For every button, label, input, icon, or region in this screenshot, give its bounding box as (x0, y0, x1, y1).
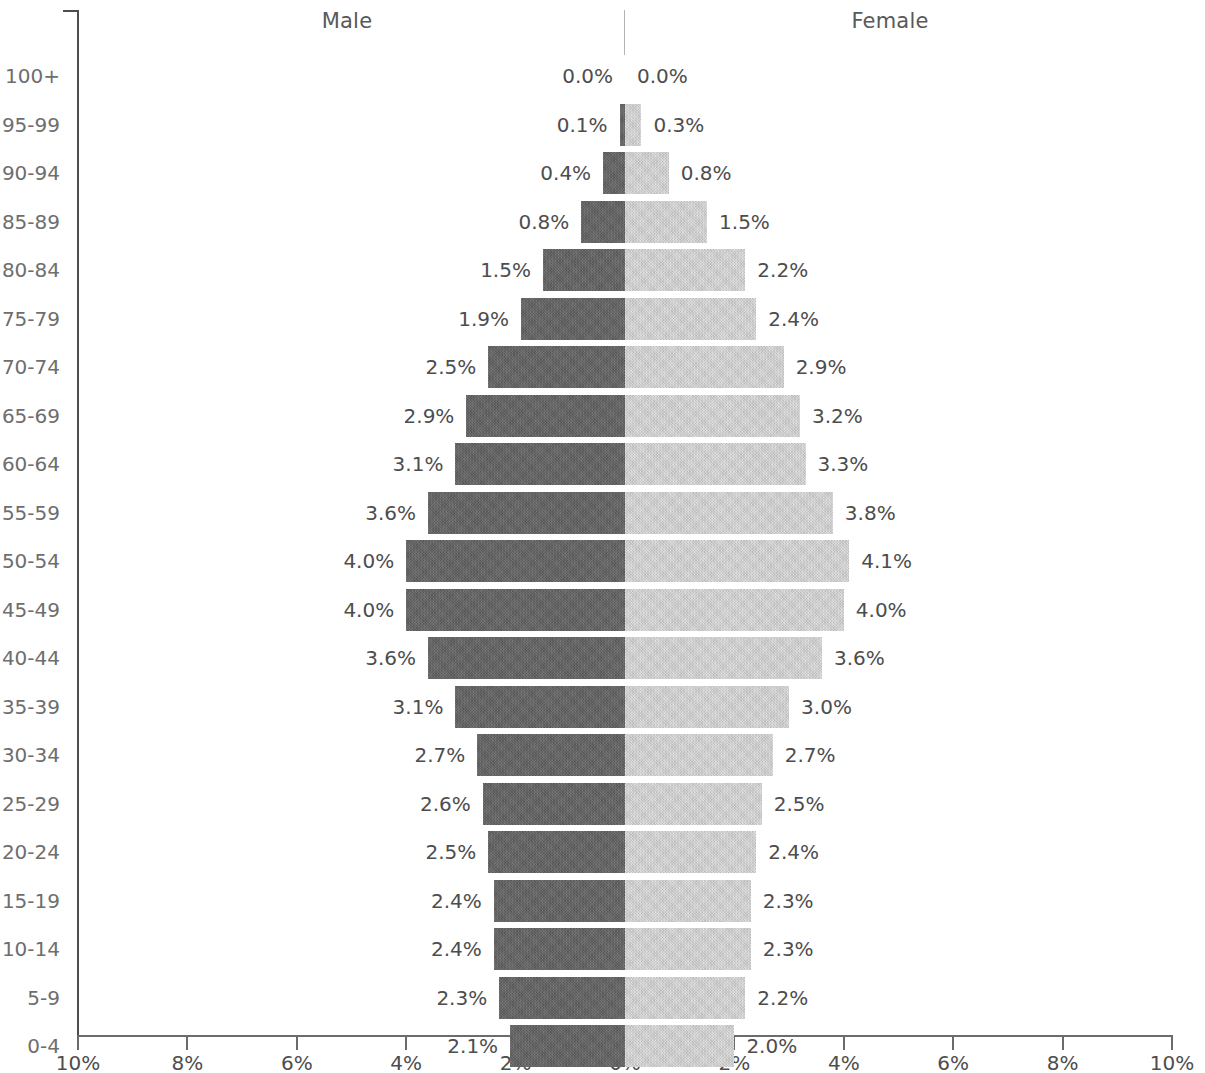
female-bar (625, 298, 756, 340)
male-value-label: 2.4% (0, 889, 482, 913)
female-bar (625, 783, 762, 825)
female-bar (625, 201, 707, 243)
male-value-label: 3.1% (0, 452, 443, 476)
female-bar (625, 152, 669, 194)
female-value-label: 2.5% (774, 792, 825, 816)
male-value-label: 1.5% (0, 258, 531, 282)
female-value-label: 2.0% (746, 1034, 797, 1058)
male-value-label: 2.9% (0, 404, 454, 428)
male-value-label: 2.5% (0, 840, 476, 864)
female-value-label: 0.8% (681, 161, 732, 185)
female-value-label: 2.9% (796, 355, 847, 379)
female-bar (625, 395, 800, 437)
male-bar (483, 783, 625, 825)
female-bar (625, 589, 844, 631)
male-value-label: 0.1% (0, 113, 608, 137)
x-axis-tick (1062, 1037, 1064, 1050)
x-axis-tick-label: 10% (1150, 1051, 1194, 1073)
male-value-label: 3.6% (0, 501, 416, 525)
male-value-label: 2.6% (0, 792, 471, 816)
female-value-label: 0.0% (637, 64, 688, 88)
female-value-label: 2.4% (768, 307, 819, 331)
female-bar (625, 104, 641, 146)
y-axis-top-cap (63, 10, 78, 12)
x-axis-tick (952, 1037, 954, 1050)
male-value-label: 4.0% (0, 598, 394, 622)
female-bar (625, 928, 751, 970)
male-bar (428, 492, 625, 534)
female-bar (625, 734, 773, 776)
male-value-label: 3.6% (0, 646, 416, 670)
female-value-label: 1.5% (719, 210, 770, 234)
female-value-label: 2.2% (757, 258, 808, 282)
female-value-label: 2.7% (785, 743, 836, 767)
female-value-label: 3.6% (834, 646, 885, 670)
male-bar (494, 928, 625, 970)
x-axis-tick-label: 6% (937, 1051, 969, 1073)
female-value-label: 2.4% (768, 840, 819, 864)
male-bar (406, 540, 625, 582)
population-pyramid-chart: Male Female 10%8%6%4%2%0%2%4%6%8%10% 100… (0, 0, 1205, 1073)
female-bar (625, 346, 784, 388)
male-series-label: Male (322, 9, 373, 33)
male-bar (466, 395, 625, 437)
female-bar (625, 977, 745, 1019)
male-bar (455, 443, 625, 485)
male-value-label: 2.7% (0, 743, 465, 767)
male-value-label: 2.4% (0, 937, 482, 961)
female-bar (625, 443, 806, 485)
male-value-label: 2.5% (0, 355, 476, 379)
male-bar (477, 734, 625, 776)
male-bar (406, 589, 625, 631)
x-axis-tick (843, 1037, 845, 1050)
female-value-label: 4.0% (856, 598, 907, 622)
female-value-label: 2.3% (763, 889, 814, 913)
male-value-label: 0.8% (0, 210, 569, 234)
male-value-label: 2.1% (0, 1034, 498, 1058)
female-bar (625, 637, 822, 679)
male-bar (488, 831, 625, 873)
male-bar (543, 249, 625, 291)
female-value-label: 4.1% (861, 549, 912, 573)
female-bar (625, 880, 751, 922)
female-bar (625, 492, 833, 534)
female-bar (625, 1025, 734, 1067)
x-axis-tick-label: 8% (1047, 1051, 1079, 1073)
male-value-label: 0.4% (0, 161, 591, 185)
male-bar (603, 152, 625, 194)
male-bar (581, 201, 625, 243)
male-bar (521, 298, 625, 340)
female-value-label: 3.2% (812, 404, 863, 428)
male-value-label: 1.9% (0, 307, 509, 331)
male-bar (428, 637, 625, 679)
female-bar (625, 686, 789, 728)
female-value-label: 2.2% (757, 986, 808, 1010)
zero-center-guide (624, 10, 625, 55)
male-value-label: 3.1% (0, 695, 443, 719)
male-bar (499, 977, 625, 1019)
x-axis-tick (1171, 1037, 1173, 1050)
female-bar (625, 249, 745, 291)
female-value-label: 3.3% (818, 452, 869, 476)
male-bar (455, 686, 625, 728)
female-value-label: 3.0% (801, 695, 852, 719)
male-bar (488, 346, 625, 388)
female-value-label: 0.3% (653, 113, 704, 137)
x-axis-tick-label: 4% (828, 1051, 860, 1073)
male-value-label: 0.0% (0, 64, 613, 88)
female-series-label: Female (851, 9, 928, 33)
female-bar (625, 540, 849, 582)
male-value-label: 2.3% (0, 986, 487, 1010)
male-bar (494, 880, 625, 922)
female-value-label: 2.3% (763, 937, 814, 961)
male-value-label: 4.0% (0, 549, 394, 573)
male-bar (510, 1025, 625, 1067)
female-value-label: 3.8% (845, 501, 896, 525)
female-bar (625, 831, 756, 873)
